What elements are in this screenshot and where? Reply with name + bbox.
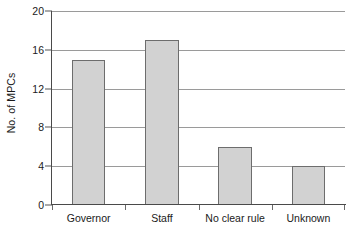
y-tick-label-12: 12 (32, 83, 44, 95)
x-tick-label: Unknown (272, 212, 345, 224)
bar-chart-figure: No. of MPCs 048121620 GovernorStaffNo cl… (0, 0, 359, 245)
x-tick-label: Staff (125, 212, 198, 224)
x-tick-mark-4 (344, 205, 345, 210)
x-axis-tick-marks (52, 205, 346, 211)
bar-series (52, 11, 345, 205)
x-tick-label: No clear rule (199, 212, 272, 224)
y-axis-title-label: No. of MPCs (5, 72, 17, 133)
y-tick-label-8: 8 (38, 121, 44, 133)
plot-area (52, 11, 345, 205)
bar (72, 60, 106, 206)
y-tick-label-0: 0 (38, 199, 44, 211)
y-axis-line (51, 11, 52, 205)
bar (218, 147, 252, 205)
x-tick-mark-1 (125, 205, 126, 210)
y-axis-tick-labels: 048121620 (20, 0, 44, 205)
y-axis-title: No. of MPCs (0, 0, 22, 205)
bar (145, 40, 179, 205)
x-tick-mark-3 (272, 205, 273, 210)
y-tick-label-20: 20 (32, 5, 44, 17)
bar (292, 166, 326, 205)
y-tick-label-16: 16 (32, 44, 44, 56)
x-tick-label: Governor (52, 212, 125, 224)
x-axis-tick-labels: GovernorStaffNo clear ruleUnknown (52, 212, 346, 234)
y-tick-label-4: 4 (38, 160, 44, 172)
x-tick-mark-2 (199, 205, 200, 210)
x-tick-mark-0 (52, 205, 53, 210)
